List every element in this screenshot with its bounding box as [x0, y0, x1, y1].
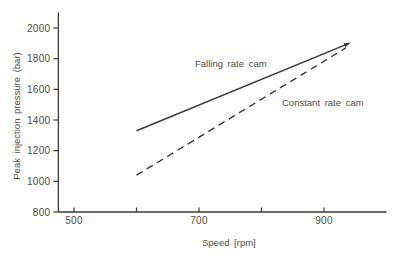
series-label-falling-rate-cam: Falling rate cam	[195, 58, 267, 69]
x-axis-title: Speed [rpm]	[202, 237, 256, 248]
y-tick-label-800: 800	[33, 207, 51, 218]
chart-canvas: 500700900800100012001400160018002000	[0, 0, 397, 262]
y-tick-label-1800: 1800	[27, 53, 51, 64]
injection-pressure-chart: 500700900800100012001400160018002000 Fal…	[0, 0, 397, 262]
y-axis-title: Peak injection pressure (bar)	[11, 52, 22, 179]
y-tick-label-1600: 1600	[27, 84, 51, 95]
y-tick-label-1200: 1200	[27, 145, 51, 156]
y-tick-label-2000: 2000	[27, 23, 51, 34]
x-tick-label-900: 900	[315, 215, 333, 226]
arrowhead-icon	[344, 43, 351, 48]
series-label-constant-rate-cam: Constant rate cam	[282, 97, 364, 108]
x-tick-label-500: 500	[65, 215, 83, 226]
y-tick-label-1400: 1400	[27, 115, 51, 126]
x-tick-label-700: 700	[190, 215, 208, 226]
series-line-falling-rate-cam	[137, 43, 350, 130]
y-tick-label-1000: 1000	[27, 176, 51, 187]
